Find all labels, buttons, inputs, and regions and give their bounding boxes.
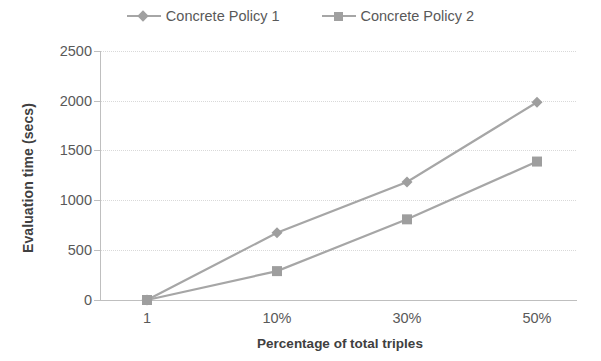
y-tick-label: 2500: [6, 43, 92, 59]
x-tick-label: 10%: [262, 310, 291, 326]
x-tick-label: 30%: [392, 310, 421, 326]
y-tick-label: 2000: [6, 93, 92, 109]
y-tick-label: 1000: [6, 192, 92, 208]
gridline: [100, 250, 576, 251]
x-tick-label: 1: [143, 310, 151, 326]
gridline: [100, 101, 576, 102]
diamond-marker-icon: [127, 10, 161, 22]
legend-label: Concrete Policy 1: [166, 8, 280, 24]
y-axis-line: [100, 51, 101, 301]
y-tick-label: 500: [6, 242, 92, 258]
square-marker-icon: [322, 10, 356, 22]
x-axis-line: [100, 300, 577, 301]
line-chart: Concrete Policy 1 Concrete Policy 2 Eval…: [0, 0, 601, 361]
x-axis-title: Percentage of total triples: [100, 336, 580, 351]
y-axis-tick-labels: 2500 2000 1500 1000 500 0: [0, 0, 92, 361]
gridline: [100, 51, 576, 52]
legend-label: Concrete Policy 2: [361, 8, 475, 24]
legend-item-concrete-policy-2[interactable]: Concrete Policy 2: [322, 8, 475, 24]
gridline: [100, 150, 576, 151]
y-tick-label: 1500: [6, 142, 92, 158]
legend-item-concrete-policy-1[interactable]: Concrete Policy 1: [127, 8, 280, 24]
x-tick-label: 50%: [522, 310, 551, 326]
plot-area: [100, 51, 576, 300]
y-tick-label: 0: [6, 292, 92, 308]
gridline: [100, 200, 576, 201]
